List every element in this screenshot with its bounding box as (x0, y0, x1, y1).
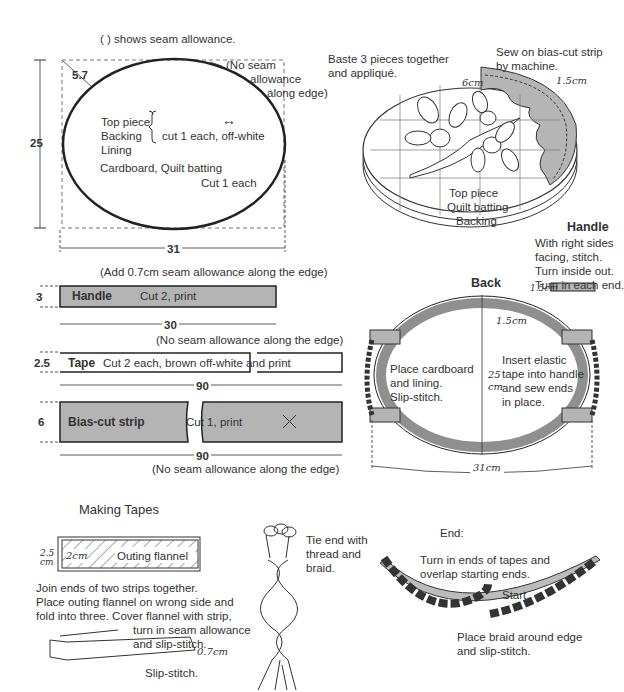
back-left-note: Place cardboard (390, 362, 474, 376)
handle-title: Handle (567, 220, 609, 234)
no-seam-note: along edge) (267, 86, 328, 100)
tie-note: thread and (306, 547, 361, 561)
baste-note: Baste 3 pieces together (328, 52, 449, 66)
handle-instruction: Turn inside out. (535, 264, 614, 278)
braid-illustration (258, 524, 298, 690)
tapes-instruction: Place outing flannel on wrong side and (36, 595, 234, 609)
tie-note: Tie end with (306, 533, 368, 547)
dim-width: 31 (165, 242, 182, 256)
bias-label: Bias-cut strip (68, 415, 145, 429)
end-place-note: Place braid around edge (457, 630, 582, 644)
dim-corner: 5.7 (72, 68, 88, 82)
piece-label: Top piece (101, 115, 150, 129)
tape-label: Tape (68, 356, 95, 370)
no-seam-note: allowance (250, 72, 301, 86)
end-place-note: and slip-stitch. (457, 644, 531, 658)
handle-instruction: With right sides (535, 236, 614, 250)
tapes-instruction: Join ends of two strips together. (36, 581, 198, 595)
oval-pattern (34, 59, 285, 252)
back-width: 31cm (470, 461, 504, 475)
baste-note: and appliqué. (328, 66, 397, 80)
handle-width: 30 (162, 318, 179, 332)
turn-note: and slip-stitch. (133, 637, 207, 651)
back-dim-1-5cm: 1.5cm (496, 314, 527, 328)
piece-label: Backing (101, 129, 142, 143)
dim-1-5cm: 1.5cm (556, 74, 587, 88)
bias-width: 90 (194, 449, 211, 463)
layer-label: Backing (456, 214, 497, 228)
sew-note: by machine. (496, 59, 558, 73)
tie-note: braid. (306, 561, 335, 575)
seam-dim: 0.7cm (197, 645, 228, 659)
grain-arrow-icon: ↔ (222, 113, 236, 127)
bias-height: 6 (38, 415, 44, 429)
piece-label: Lining (101, 143, 132, 157)
back-right-note: Insert elastic (502, 353, 567, 367)
tape-height: 2.5 (34, 356, 50, 370)
cut-instruction: Cut 1 each (201, 176, 257, 190)
flannel-label: Outing flannel (117, 549, 188, 563)
end-title: End: (440, 526, 464, 540)
flannel-inner-dim: 2cm (66, 549, 87, 563)
dim-height: 25 (30, 136, 43, 150)
handle-instruction: facing, stitch. (535, 250, 602, 264)
flannel-dim-unit: cm (40, 555, 54, 569)
sew-note: Sew on bias-cut strip (496, 45, 603, 59)
strip-pieces (40, 286, 342, 455)
back-right-note: in place. (502, 395, 545, 409)
handle-height: 3 (36, 290, 42, 304)
other-pieces: Cardboard, Quilt batting (100, 161, 222, 175)
layer-label: Top piece (449, 186, 498, 200)
bias-seam-note: (No seam allowance along the edge) (152, 462, 339, 476)
cut-instruction: cut 1 each, off-white (162, 129, 265, 143)
tape-cut: Cut 2 each, brown off-white and print (103, 356, 291, 370)
handle-label: Handle (72, 289, 112, 303)
turn-note: turn in seam allowance (133, 623, 251, 637)
handle-cut: Cut 2, print (140, 289, 196, 303)
end-turn-note: Turn in ends of tapes and (420, 553, 550, 567)
back-right-note: tape into handle (502, 367, 584, 381)
tape-seam-note: (No seam allowance along the edge) (156, 333, 343, 347)
no-seam-note: (No seam (226, 58, 276, 72)
handle-seam-note: (Add 0.7cm seam allowance along the edge… (100, 265, 328, 279)
layer-label: Quilt batting (447, 200, 508, 214)
bias-cut: Cut 1, print (186, 415, 242, 429)
back-left-note: Slip-stitch. (390, 390, 443, 404)
back-title: Back (471, 276, 501, 290)
back-height-unit: cm (488, 380, 503, 394)
tape-width: 90 (194, 379, 211, 393)
seam-legend: ( ) shows seam allowance. (100, 32, 236, 46)
start-label: Start (502, 588, 526, 602)
end-turn-note: overlap starting ends. (420, 567, 530, 581)
tapes-instruction: fold into three. Cover flannel with stri… (36, 609, 232, 623)
making-tapes-title: Making Tapes (79, 503, 159, 517)
back-left-note: and lining. (390, 376, 442, 390)
handle-dim: 1.5cm (530, 281, 558, 295)
back-right-note: and sew ends (502, 381, 573, 395)
slip-stitch-note: Slip-stitch. (145, 666, 198, 680)
dim-6cm: 6cm (462, 76, 483, 90)
